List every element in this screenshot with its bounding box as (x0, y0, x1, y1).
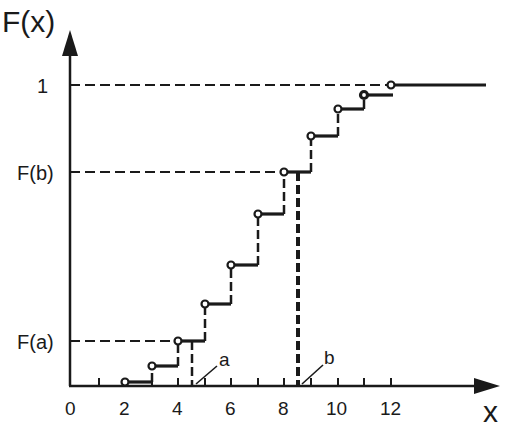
x-tick-2: 2 (119, 398, 130, 419)
x-tick-0: 0 (65, 398, 76, 419)
x-tick-12: 12 (380, 398, 401, 419)
x-axis-arrow-icon (474, 378, 500, 394)
x-tick-8: 8 (278, 398, 289, 419)
cdf-chart: F(x) x 1 F(b) F(a) 0 2 4 6 8 10 12 a b (0, 0, 507, 428)
x-tick-10: 10 (326, 398, 347, 419)
x-tick-6: 6 (225, 398, 236, 419)
ab-markers (192, 172, 298, 386)
x-axis-label: x (483, 395, 498, 428)
y-tick-fa: F(a) (17, 331, 54, 353)
y-axis-label: F(x) (2, 5, 55, 38)
ab-leaders (196, 365, 323, 384)
label-a: a (219, 349, 230, 370)
y-tick-fb: F(b) (17, 162, 54, 184)
step-risers (152, 95, 364, 382)
y-axis-arrow-icon (62, 30, 78, 56)
axes (69, 52, 482, 386)
y-tick-one: 1 (37, 75, 48, 97)
label-b: b (324, 347, 335, 368)
x-tick-4: 4 (172, 398, 183, 419)
